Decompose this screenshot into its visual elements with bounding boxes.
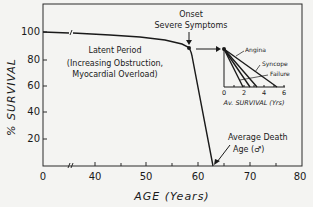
inset-chart: Angina Syncope Failure 0 2 4 6 Av. SURVI… xyxy=(222,46,290,107)
inset-x-tick-6: 6 xyxy=(282,89,286,97)
inset-line-angina xyxy=(224,49,277,87)
y-axis-title: % SURVIVAL xyxy=(5,58,18,136)
x-tick-0: 0 xyxy=(40,171,46,182)
axis-break-marks xyxy=(68,30,73,168)
onset-arrow xyxy=(186,32,192,45)
x-tick-60: 60 xyxy=(192,171,205,182)
latent-line3: Myocardial Overload) xyxy=(72,70,157,79)
inset-x-tick-4: 4 xyxy=(262,89,266,97)
inset-x-tick-2: 2 xyxy=(242,89,246,97)
death-age-annotation: Average Death Age (♂) xyxy=(228,133,288,154)
onset-annotation: Onset Severe Symptoms xyxy=(155,10,228,30)
survival-chart: 100 80 60 40 20 0 40 50 60 70 80 AGE (Ye… xyxy=(0,0,313,207)
inset-line-failure xyxy=(224,49,250,87)
x-axis-title: AGE (Years) xyxy=(133,190,209,203)
x-tick-70: 70 xyxy=(244,171,257,182)
y-ticks xyxy=(43,32,47,139)
x-tick-labels: 0 40 50 60 70 80 xyxy=(40,171,307,182)
inset-series-labels: Angina Syncope Failure xyxy=(245,46,290,77)
y-tick-80: 80 xyxy=(27,54,40,65)
death-arrow xyxy=(214,145,230,165)
latent-line2: (Increasing Obstruction, xyxy=(67,59,163,68)
y-tick-labels: 100 80 60 40 20 xyxy=(21,26,40,144)
latent-period-annotation: Latent Period (Increasing Obstruction, M… xyxy=(67,46,163,79)
y-tick-20: 20 xyxy=(27,133,40,144)
death-line2: Age (♂) xyxy=(233,145,264,154)
onset-point xyxy=(187,46,191,50)
onset-line1: Onset xyxy=(179,10,203,19)
latent-title: Latent Period xyxy=(88,46,141,55)
x-ticks xyxy=(95,162,276,166)
x-tick-40: 40 xyxy=(89,171,102,182)
inset-x-tick-labels: 0 2 4 6 xyxy=(222,89,286,97)
x-tick-50: 50 xyxy=(140,171,153,182)
x-tick-80: 80 xyxy=(294,171,307,182)
death-line1: Average Death xyxy=(228,133,288,142)
y-tick-40: 40 xyxy=(27,106,40,117)
y-tick-100: 100 xyxy=(21,26,40,37)
inset-arrow xyxy=(196,46,221,52)
onset-line2: Severe Symptoms xyxy=(155,21,228,30)
label-syncope: Syncope xyxy=(262,60,288,68)
label-angina: Angina xyxy=(245,46,266,54)
inset-x-tick-0: 0 xyxy=(222,89,226,97)
inset-x-axis-title: Av. SURVIVAL (Yrs) xyxy=(223,99,285,107)
label-failure: Failure xyxy=(270,70,290,77)
y-tick-60: 60 xyxy=(27,80,40,91)
